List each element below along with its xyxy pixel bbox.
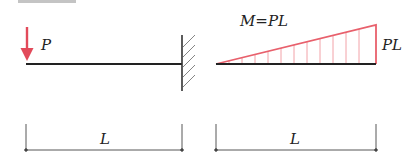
cantilever-figure: P [21,27,196,91]
fixed-support-icon [182,35,195,91]
moment-formula-label: M=PL [239,12,288,30]
moment-end-value-label: PL [381,36,402,54]
moment-outline [216,25,376,64]
cropped-title-fragment [18,0,76,3]
load-arrow-icon [21,27,34,61]
right-span-label: L [289,130,300,148]
left-span-label: L [99,130,110,148]
moment-diagram: M=PL PL [216,12,402,64]
load-label: P [40,36,52,54]
cantilever-moment-diagram: P M=PL [0,0,413,153]
